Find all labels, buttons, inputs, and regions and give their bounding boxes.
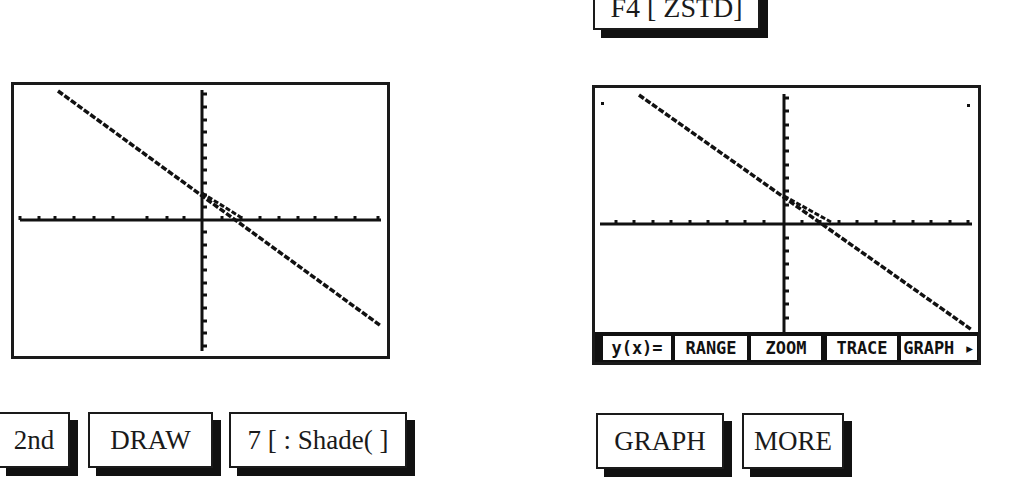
shade-key[interactable]: 7 [ : Shade( ] — [229, 412, 407, 468]
menu-range-label: RANGE — [685, 338, 736, 358]
graph-key-label: GRAPH — [614, 426, 706, 457]
menu-graph-label: GRAPH ▸ — [903, 338, 975, 358]
menu-trace-label: TRACE — [836, 338, 887, 358]
graph-screen-left — [11, 82, 390, 359]
corner-dot-right — [967, 104, 970, 107]
menu-zoom[interactable]: ZOOM — [751, 336, 821, 360]
graph-plot-right — [595, 88, 978, 362]
more-key-label: MORE — [754, 426, 832, 457]
menu-yx[interactable]: y(x)= — [603, 336, 671, 360]
graph-line-main — [639, 95, 972, 330]
graph-screen-right: y(x)= RANGE ZOOM TRACE GRAPH ▸ — [592, 85, 981, 365]
f4-zstd-key[interactable]: F4 [ ZSTD] — [593, 0, 760, 30]
menu-range[interactable]: RANGE — [675, 336, 747, 360]
graph-line-secondary — [202, 193, 242, 218]
more-key[interactable]: MORE — [742, 413, 844, 469]
graph-line-main — [58, 91, 381, 326]
shade-key-label: 7 [ : Shade( ] — [248, 425, 389, 456]
corner-dot-left — [601, 102, 604, 105]
menu-trace[interactable]: TRACE — [827, 336, 897, 360]
graph-line-secondary — [784, 196, 831, 222]
graph-plot-left — [14, 85, 387, 356]
f4-zstd-key-label: F4 [ ZSTD] — [610, 0, 742, 24]
second-key[interactable]: 2nd — [0, 412, 70, 468]
function-menu-bar: y(x)= RANGE ZOOM TRACE GRAPH ▸ — [595, 332, 978, 362]
graph-key[interactable]: GRAPH — [596, 413, 724, 469]
draw-key-label: DRAW — [110, 425, 190, 456]
draw-key[interactable]: DRAW — [88, 412, 213, 468]
menu-zoom-label: ZOOM — [766, 338, 807, 358]
second-key-label: 2nd — [14, 425, 55, 456]
menu-yx-label: y(x)= — [611, 338, 662, 358]
menu-graph[interactable]: GRAPH ▸ — [901, 336, 977, 360]
